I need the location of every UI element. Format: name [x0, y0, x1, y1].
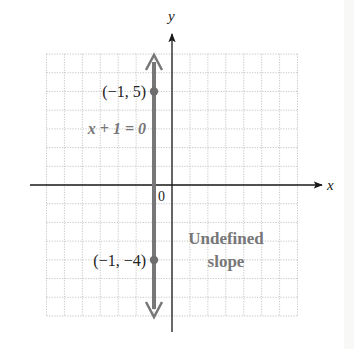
point-neg1-5 — [150, 87, 158, 95]
point-label-bottom: (−1, −4) — [93, 252, 146, 270]
annotation-slope: slope — [208, 252, 245, 271]
x-axis-label: x — [326, 177, 334, 193]
graph-figure: x y 0 (−1, 5) (−1, −4) x + 1 = 0 Undefin… — [0, 0, 354, 349]
coordinate-plane: x y 0 (−1, 5) (−1, −4) x + 1 = 0 Undefin… — [0, 0, 354, 349]
y-axis-label: y — [166, 8, 175, 24]
edge-strip — [344, 0, 354, 349]
equation-label: x + 1 = 0 — [87, 120, 146, 137]
origin-label: 0 — [158, 189, 165, 204]
point-neg1-neg4 — [150, 256, 158, 264]
annotation-undefined: Undefined — [188, 229, 264, 248]
point-label-top: (−1, 5) — [102, 83, 146, 101]
